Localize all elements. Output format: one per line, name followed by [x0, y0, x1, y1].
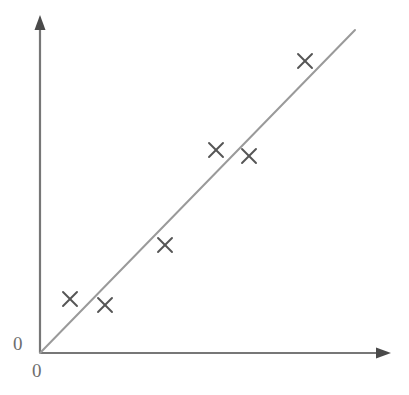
scatter-plot-figure: 0 0: [0, 0, 409, 395]
plot-canvas: [0, 0, 409, 395]
data-point-marker: [158, 238, 172, 252]
data-point-markers: [63, 54, 312, 312]
data-point-marker: [63, 292, 77, 306]
data-point-marker: [209, 143, 223, 157]
line-of-best-fit: [40, 30, 355, 353]
data-point-marker: [98, 298, 112, 312]
y-axis-arrowhead-icon: [35, 15, 46, 30]
x-axis-arrowhead-icon: [376, 348, 391, 359]
y-axis-origin-label: 0: [13, 334, 23, 353]
data-point-marker: [242, 149, 256, 163]
data-point-marker: [298, 54, 312, 68]
x-axis-origin-label: 0: [32, 361, 42, 380]
